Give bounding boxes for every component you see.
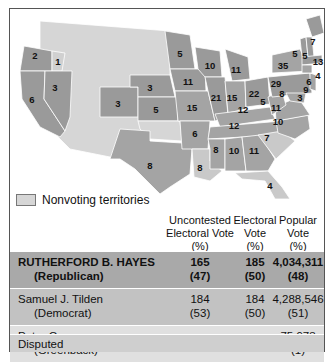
- svg-text:11: 11: [249, 145, 260, 156]
- table-row-tilden: Samuel J. Tilden (Democrat) 184 (53) 184…: [10, 288, 324, 325]
- popular-cell: 4,288,546 (51): [268, 292, 328, 320]
- candidate-name: RUTHERFORD B. HAYES (Republican): [18, 255, 155, 283]
- value: 4,034,311: [268, 255, 328, 269]
- candidate-party: (Republican): [18, 269, 155, 283]
- svg-text:12: 12: [229, 120, 240, 131]
- popular-cell: 4,034,311 (48): [268, 255, 328, 283]
- header-line: Popular: [272, 214, 324, 227]
- svg-text:10: 10: [229, 145, 240, 156]
- nonvoting-swatch-icon: [16, 194, 36, 206]
- uncontested-cell: 184 (53): [160, 292, 240, 320]
- svg-text:12: 12: [238, 104, 249, 115]
- value: 165: [160, 255, 240, 269]
- header-uncontested: Uncontested Electoral Vote (%): [160, 214, 240, 253]
- svg-text:5: 5: [177, 48, 183, 59]
- svg-text:11: 11: [183, 76, 194, 87]
- table-row-hayes: RUTHERFORD B. HAYES (Republican) 165 (47…: [10, 251, 324, 288]
- svg-text:3: 3: [115, 98, 120, 109]
- svg-text:21: 21: [211, 92, 222, 103]
- candidate-name-text: Samuel J. Tilden: [18, 293, 103, 305]
- svg-text:10: 10: [273, 116, 284, 127]
- percent: (48): [268, 269, 328, 283]
- svg-text:11: 11: [231, 64, 242, 75]
- svg-text:13: 13: [313, 56, 324, 67]
- state-maine: [306, 15, 324, 37]
- svg-text:15: 15: [187, 102, 198, 113]
- svg-text:6: 6: [306, 76, 311, 87]
- header-popular: Popular Vote (%): [272, 214, 324, 253]
- svg-text:2: 2: [32, 50, 37, 61]
- svg-text:8: 8: [213, 144, 218, 155]
- svg-text:5: 5: [153, 104, 159, 115]
- candidate-party: (Democrat): [18, 306, 103, 320]
- svg-text:6: 6: [192, 128, 197, 139]
- svg-text:22: 22: [249, 88, 260, 99]
- uncontested-cell: 165 (47): [160, 255, 240, 283]
- svg-text:3: 3: [297, 92, 302, 103]
- state-florida: [235, 171, 290, 199]
- table-row-disputed: Disputed: [10, 334, 324, 352]
- us-electoral-map: 2 1 3 6 3 3 5 8 5 11 15 6 8 10 21 11 15 …: [10, 9, 324, 199]
- svg-text:10: 10: [205, 60, 216, 71]
- candidate-name: Samuel J. Tilden (Democrat): [18, 292, 103, 320]
- disputed-label: Disputed: [18, 337, 63, 351]
- value: 184: [160, 292, 240, 306]
- svg-text:8: 8: [279, 88, 284, 99]
- svg-text:5: 5: [292, 48, 298, 59]
- svg-text:3: 3: [52, 82, 57, 93]
- svg-text:5: 5: [302, 50, 308, 61]
- state-connecticut: [302, 65, 312, 73]
- svg-text:8: 8: [197, 162, 202, 173]
- header-line: Uncontested: [160, 214, 240, 227]
- svg-text:4: 4: [315, 70, 321, 81]
- election-1876-panel: 2 1 3 6 3 3 5 8 5 11 15 6 8 10 21 11 15 …: [9, 8, 325, 352]
- svg-text:5: 5: [260, 96, 266, 107]
- value: 4,288,546: [268, 292, 328, 306]
- svg-text:1: 1: [55, 56, 61, 67]
- svg-text:35: 35: [278, 60, 289, 71]
- svg-text:6: 6: [29, 94, 34, 105]
- svg-text:3: 3: [147, 82, 152, 93]
- header-line: Electoral Vote: [160, 227, 240, 240]
- percent: (47): [160, 269, 240, 283]
- svg-text:11: 11: [271, 102, 282, 113]
- legend: Nonvoting territories: [16, 193, 149, 207]
- percent: (53): [160, 306, 240, 320]
- percent: (51): [268, 306, 328, 320]
- svg-text:8: 8: [147, 160, 152, 171]
- svg-text:15: 15: [227, 92, 238, 103]
- svg-text:7: 7: [310, 36, 315, 47]
- candidate-name-text: RUTHERFORD B. HAYES: [18, 256, 155, 268]
- header-line: Vote: [272, 227, 324, 240]
- svg-text:4: 4: [267, 180, 273, 191]
- svg-text:7: 7: [264, 132, 269, 143]
- legend-label: Nonvoting territories: [42, 193, 149, 207]
